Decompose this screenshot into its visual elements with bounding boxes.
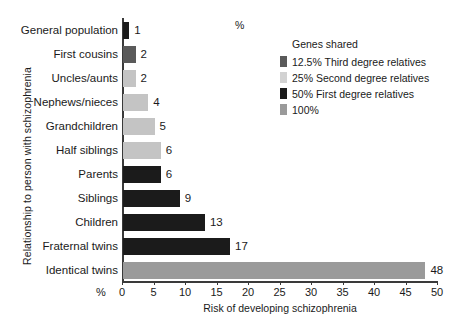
legend-label: 25% Second degree relatives [292, 72, 429, 84]
legend-swatch [280, 56, 287, 67]
bar-value-label: 4 [148, 90, 159, 114]
bar-value-label: 6 [161, 162, 172, 186]
category-label: Children [75, 210, 122, 234]
category-label: Half siblings [56, 138, 122, 162]
legend-swatch [280, 88, 287, 99]
x-axis-tick-label: 35 [336, 286, 348, 298]
legend-label: 12.5% Third degree relatives [292, 56, 426, 68]
bar-row: Children13 [122, 210, 437, 234]
category-label: Parents [78, 162, 122, 186]
x-axis-tick [154, 281, 155, 285]
legend: Genes shared 12.5% Third degree relative… [280, 38, 448, 118]
schizophrenia-risk-bar-chart: Relationship to person with schizophreni… [0, 0, 451, 320]
x-axis-tick-label: 50 [431, 286, 443, 298]
bar [123, 214, 205, 231]
legend-swatch [280, 104, 287, 115]
x-axis-title: Risk of developing schizophrenia [122, 302, 438, 314]
legend-item: 100% [280, 102, 448, 117]
category-label: Grandchildren [46, 114, 122, 138]
bar [123, 94, 148, 111]
bar-value-label: 17 [230, 234, 248, 258]
category-label: Nephews/nieces [34, 90, 122, 114]
bar [123, 262, 425, 279]
bar-row: Parents6 [122, 162, 437, 186]
bar [123, 46, 136, 63]
bar-value-label: 2 [136, 66, 147, 90]
x-axis-tick-label: 10 [179, 286, 191, 298]
bar-value-label: 9 [180, 186, 191, 210]
bar-row: Fraternal twins17 [122, 234, 437, 258]
x-axis-tick-label: 45 [399, 286, 411, 298]
category-label: Siblings [78, 186, 122, 210]
bar-value-label: 1 [129, 18, 140, 42]
legend-item: 50% First degree relatives [280, 86, 448, 101]
bar [123, 118, 155, 135]
x-axis-tick [406, 281, 407, 285]
legend-swatch [280, 72, 287, 83]
bar-value-label: 48 [425, 258, 443, 282]
bar-value-label: 13 [205, 210, 223, 234]
x-axis-tick [217, 281, 218, 285]
legend-label: 100% [292, 104, 319, 116]
x-axis-tick [437, 281, 438, 285]
legend-item: 12.5% Third degree relatives [280, 54, 448, 69]
bar-row: Half siblings6 [122, 138, 437, 162]
category-label: Fraternal twins [43, 234, 122, 258]
category-label: First cousins [53, 42, 122, 66]
bar-value-label: 5 [155, 114, 166, 138]
x-axis-tick-label: 20 [242, 286, 254, 298]
legend-items: 12.5% Third degree relatives25% Second d… [280, 54, 448, 117]
x-axis-tick [343, 281, 344, 285]
x-axis-tick [248, 281, 249, 285]
x-axis-tick [311, 281, 312, 285]
x-axis-tick [185, 281, 186, 285]
bar-row: Identical twins48 [122, 258, 437, 282]
legend-title: Genes shared [292, 38, 448, 50]
x-axis-tick [374, 281, 375, 285]
bar [123, 190, 180, 207]
x-axis-tick-label: 30 [305, 286, 317, 298]
category-label: General population [21, 18, 122, 42]
bar-value-label: 6 [161, 138, 172, 162]
bar [123, 238, 230, 255]
bar [123, 70, 136, 87]
x-axis-tick [122, 281, 123, 285]
x-axis-tick-label: 25 [273, 286, 285, 298]
legend-label: 50% First degree relatives [292, 88, 414, 100]
y-axis-title: Relationship to person with schizophreni… [21, 41, 33, 291]
x-axis-tick-label: 40 [368, 286, 380, 298]
bar [123, 166, 161, 183]
x-axis-tick [280, 281, 281, 285]
x-axis-tick-label: 15 [210, 286, 222, 298]
percent-axis-label: % [96, 286, 106, 298]
bar-value-label: 2 [136, 42, 147, 66]
legend-item: 25% Second degree relatives [280, 70, 448, 85]
category-label: Identical twins [46, 258, 122, 282]
x-axis-tick-label: 0 [119, 286, 125, 298]
x-axis-tick-label: 5 [150, 286, 156, 298]
bar-row: Siblings9 [122, 186, 437, 210]
category-label: Uncles/aunts [52, 66, 122, 90]
bar [123, 142, 161, 159]
